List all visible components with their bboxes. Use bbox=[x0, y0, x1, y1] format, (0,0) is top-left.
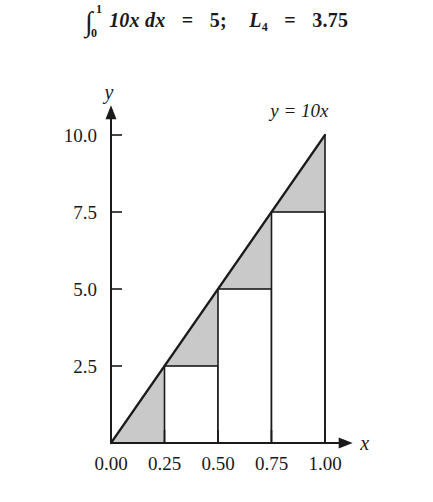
x-tick-label-2: 0.50 bbox=[201, 453, 234, 474]
x-axis-arrowhead bbox=[339, 438, 353, 449]
y-tick-label-2: 7.5 bbox=[73, 202, 97, 223]
plot-area: 0.000.250.500.751.002.55.07.510.0xyy = 1… bbox=[0, 0, 433, 502]
x-axis-label: x bbox=[359, 432, 369, 454]
y-axis-label: y bbox=[103, 81, 114, 104]
y-tick-label-0: 2.5 bbox=[73, 356, 97, 377]
riemann-rectangle-3 bbox=[218, 289, 272, 443]
x-tick-label-0: 0.00 bbox=[94, 453, 127, 474]
x-tick-label-1: 0.25 bbox=[148, 453, 181, 474]
y-tick-label-1: 5.0 bbox=[73, 279, 97, 300]
riemann-rectangle-4 bbox=[272, 212, 326, 443]
y-axis-arrowhead bbox=[106, 105, 117, 119]
y-tick-label-3: 10.0 bbox=[64, 125, 97, 146]
x-tick-label-4: 1.00 bbox=[308, 453, 341, 474]
x-tick-label-3: 0.75 bbox=[255, 453, 288, 474]
riemann-sum-figure: ∫ 1 0 10x dx = 5; L4 = 3.75 0.000.250.50… bbox=[0, 0, 433, 502]
function-label: y = 10x bbox=[268, 100, 329, 121]
riemann-rectangle-2 bbox=[165, 366, 219, 443]
